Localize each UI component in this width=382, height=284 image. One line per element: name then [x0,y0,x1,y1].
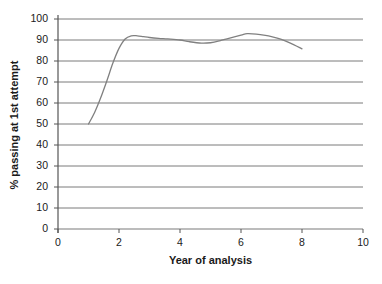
y-tick-label: 70 [18,76,48,87]
line-chart: % passing at 1st attempt 010203040506070… [0,0,382,284]
y-tick-label: 40 [18,139,48,150]
y-tick-label: 10 [18,202,48,213]
y-tick-label: 50 [18,118,48,129]
gridlines [58,19,363,229]
y-tick-label: 0 [18,223,48,234]
y-tick-label: 30 [18,160,48,171]
y-tick-label: 100 [18,13,48,24]
x-tick-label: 10 [348,237,378,248]
x-axis-title: Year of analysis [58,254,363,267]
x-tick-label: 6 [226,237,256,248]
x-tick-label: 4 [165,237,195,248]
x-tick-label: 0 [43,237,73,248]
y-tick-label: 60 [18,97,48,108]
y-tick-label: 90 [18,34,48,45]
y-tick-label: 20 [18,181,48,192]
x-tick-label: 8 [287,237,317,248]
x-axis-ticks [58,229,363,233]
y-tick-label: 80 [18,55,48,66]
x-tick-label: 2 [104,237,134,248]
data-series-line [89,34,303,124]
